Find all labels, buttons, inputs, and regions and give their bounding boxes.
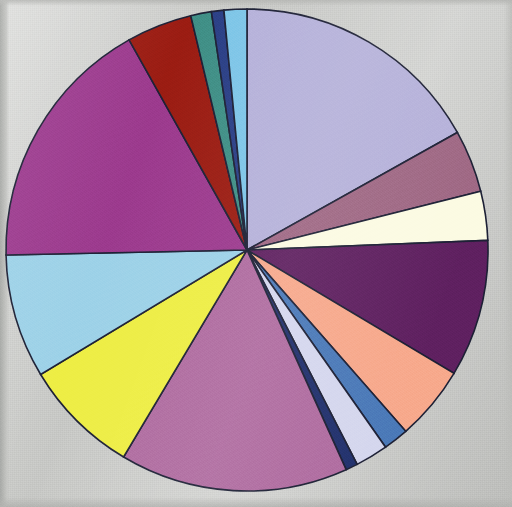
pie-slice-group [6, 9, 488, 491]
pie-chart-figure [0, 0, 512, 507]
pie-chart [0, 0, 512, 507]
